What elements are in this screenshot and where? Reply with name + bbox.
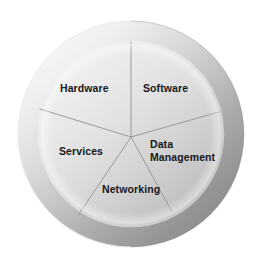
segmented-circle-diagram: Hardware Software Data Management Networ… — [0, 0, 260, 272]
disc-highlight-sheen — [39, 42, 223, 226]
wheel-graphic — [0, 0, 260, 272]
